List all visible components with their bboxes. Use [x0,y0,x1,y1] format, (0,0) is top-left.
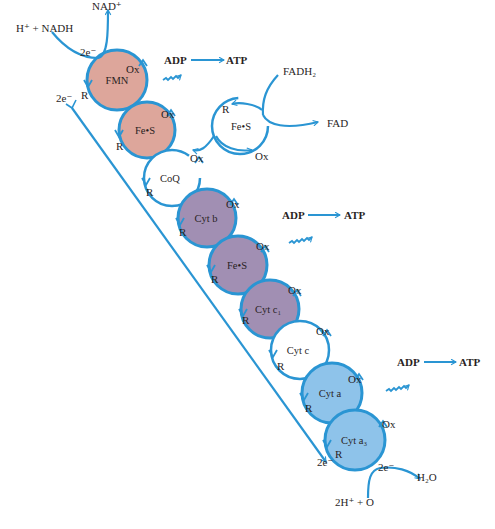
carrier-label: Cyt a₃ [341,435,367,446]
carrier-fes-side: Fe•S [212,98,268,154]
fadh2-label: FADH₂ [283,65,316,77]
electron-label-left: 2e⁻ [56,92,72,104]
electron-transport-chain-diagram: FMN Fe•S CoQ Fe•S Cyt b Fe•S Cyt c₁ Cyt … [0,0,495,529]
carrier-label: CoQ [160,173,180,184]
carrier-label: Cyt c [287,345,310,356]
svg-text:R: R [222,103,230,115]
svg-text:Ox: Ox [316,325,330,337]
carrier-label: Cyt b [194,213,217,224]
electron-label-top: 2e⁻ [80,46,96,58]
svg-text:Ox: Ox [255,150,269,162]
adp-label: ADP [164,54,187,66]
svg-text:R: R [81,89,89,101]
carrier-label: Cyt a [319,388,342,399]
svg-text:R: R [305,402,313,414]
svg-text:R: R [146,186,154,198]
electron-label-final: 2e⁻ [378,461,394,473]
phosphorylation-site-3: ADP ATP [386,356,480,391]
svg-text:R: R [277,360,285,372]
atp-label: ATP [226,54,247,66]
carrier-label: Fe•S [231,121,251,132]
svg-text:Ox: Ox [382,418,396,430]
carrier-label: Cyt c₁ [255,304,281,315]
carrier-label: Fe•S [227,260,247,271]
oxygen-label: 2H⁺ + O [335,496,374,508]
carrier-label: FMN [106,75,129,86]
water-label: H₂O [417,471,437,483]
svg-text:Ox: Ox [256,240,270,252]
svg-text:Ox: Ox [190,152,204,164]
phosphorylation-site-2: ADP ATP [282,209,365,243]
svg-text:Ox: Ox [226,198,240,210]
svg-text:R: R [179,226,187,238]
svg-text:R: R [242,314,250,326]
phosphorylation-site-1: ADP ATP [163,54,247,80]
electron-label-bottom: 2e⁻ [317,456,333,468]
adp-label: ADP [282,209,305,221]
adp-label: ADP [397,356,420,368]
atp-label: ATP [459,356,480,368]
svg-text:Ox: Ox [126,63,140,75]
svg-text:Ox: Ox [161,108,175,120]
carrier-label: Fe•S [135,125,155,136]
nad-label: NAD⁺ [92,0,122,12]
fad-label: FAD [327,117,348,129]
nadh-label: H⁺ + NADH [16,22,73,34]
svg-text:R: R [335,448,343,460]
svg-text:R: R [211,273,219,285]
atp-label: ATP [344,209,365,221]
svg-text:Ox: Ox [288,284,302,296]
svg-text:Ox: Ox [348,373,362,385]
carrier-cyt-a3: Cyt a₃ [325,410,385,470]
svg-text:R: R [116,140,124,152]
